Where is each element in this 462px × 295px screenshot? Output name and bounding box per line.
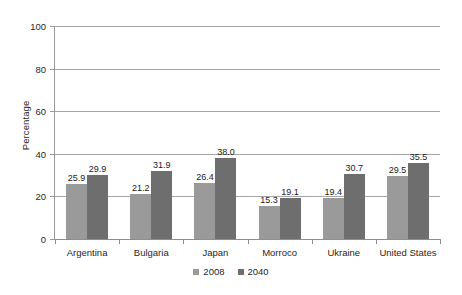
bar-2040-argentina: 29.9 (87, 175, 108, 239)
bar-value-label: 30.7 (345, 163, 363, 173)
bar-value-label: 29.9 (89, 164, 107, 174)
x-axis-tick (376, 239, 377, 244)
bar-2008-ukraine: 19.4 (323, 198, 344, 239)
x-axis-category-label: United States (379, 247, 436, 258)
y-axis-tick (50, 196, 55, 197)
bar-2008-united-states: 29.5 (387, 176, 408, 239)
bar-2008-japan: 26.4 (194, 183, 215, 239)
y-axis-tick-label: 20 (35, 191, 46, 202)
bar-2040-united-states: 35.5 (408, 163, 429, 239)
bar-value-label: 19.1 (281, 187, 299, 197)
y-axis-line (54, 26, 55, 240)
x-axis-tick (312, 239, 313, 244)
y-axis-title: Percentage (20, 78, 31, 174)
bar-value-label: 35.5 (410, 152, 428, 162)
bar-2040-morroco: 19.1 (280, 198, 301, 239)
x-axis-tick (440, 239, 441, 244)
bar-group: 21.231.9 (130, 26, 172, 239)
gridline (55, 196, 440, 197)
y-axis-tick-label: 40 (35, 148, 46, 159)
bar-group: 15.319.1 (259, 26, 301, 239)
bar-chart: Percentage 02040608010025.929.921.231.92… (0, 0, 462, 295)
legend-swatch-icon (238, 269, 244, 275)
bar-value-label: 26.4 (196, 172, 214, 182)
legend-item-2040[interactable]: 2040 (238, 266, 269, 277)
legend-item-2008[interactable]: 2008 (193, 266, 224, 277)
bar-group: 25.929.9 (66, 26, 108, 239)
gridline (55, 26, 440, 27)
y-axis-tick-label: 100 (30, 21, 46, 32)
y-axis-tick-label: 80 (35, 63, 46, 74)
gridline (55, 154, 440, 155)
y-axis-tick (50, 111, 55, 112)
legend-label: 2040 (248, 266, 269, 277)
y-axis-tick (50, 26, 55, 27)
bar-value-label: 21.2 (132, 183, 150, 193)
gridline (55, 111, 440, 112)
bar-group: 29.535.5 (387, 26, 429, 239)
bar-group: 26.438.0 (194, 26, 236, 239)
bar-value-label: 25.9 (68, 173, 86, 183)
x-axis-tick (119, 239, 120, 244)
bar-value-label: 19.4 (324, 187, 342, 197)
bar-2008-bulgaria: 21.2 (130, 194, 151, 239)
y-axis-tick (50, 154, 55, 155)
bar-2040-bulgaria: 31.9 (151, 171, 172, 239)
x-axis-tick (183, 239, 184, 244)
plot-area: 02040608010025.929.921.231.926.438.015.3… (55, 26, 440, 239)
bar-2040-ukraine: 30.7 (344, 174, 365, 239)
x-axis-tick (248, 239, 249, 244)
x-axis-category-label: Argentina (67, 247, 108, 258)
y-axis-tick-label: 0 (41, 234, 46, 245)
gridline (55, 69, 440, 70)
x-axis-category-label: Japan (202, 247, 228, 258)
x-axis-category-label: Ukraine (327, 247, 360, 258)
x-axis-category-label: Morroco (262, 247, 297, 258)
chart-legend: 20082040 (0, 266, 462, 277)
y-axis-tick (50, 69, 55, 70)
bar-value-label: 15.3 (260, 195, 278, 205)
bar-group: 19.430.7 (323, 26, 365, 239)
bar-2008-argentina: 25.9 (66, 184, 87, 239)
y-axis-tick-label: 60 (35, 106, 46, 117)
x-axis-category-label: Bulgaria (134, 247, 169, 258)
bar-2008-morroco: 15.3 (259, 206, 280, 239)
legend-label: 2008 (203, 266, 224, 277)
bar-value-label: 31.9 (153, 160, 171, 170)
bar-value-label: 38.0 (217, 147, 235, 157)
bar-value-label: 29.5 (389, 165, 407, 175)
legend-swatch-icon (193, 269, 199, 275)
bar-2040-japan: 38.0 (215, 158, 236, 239)
x-axis-tick (55, 239, 56, 244)
